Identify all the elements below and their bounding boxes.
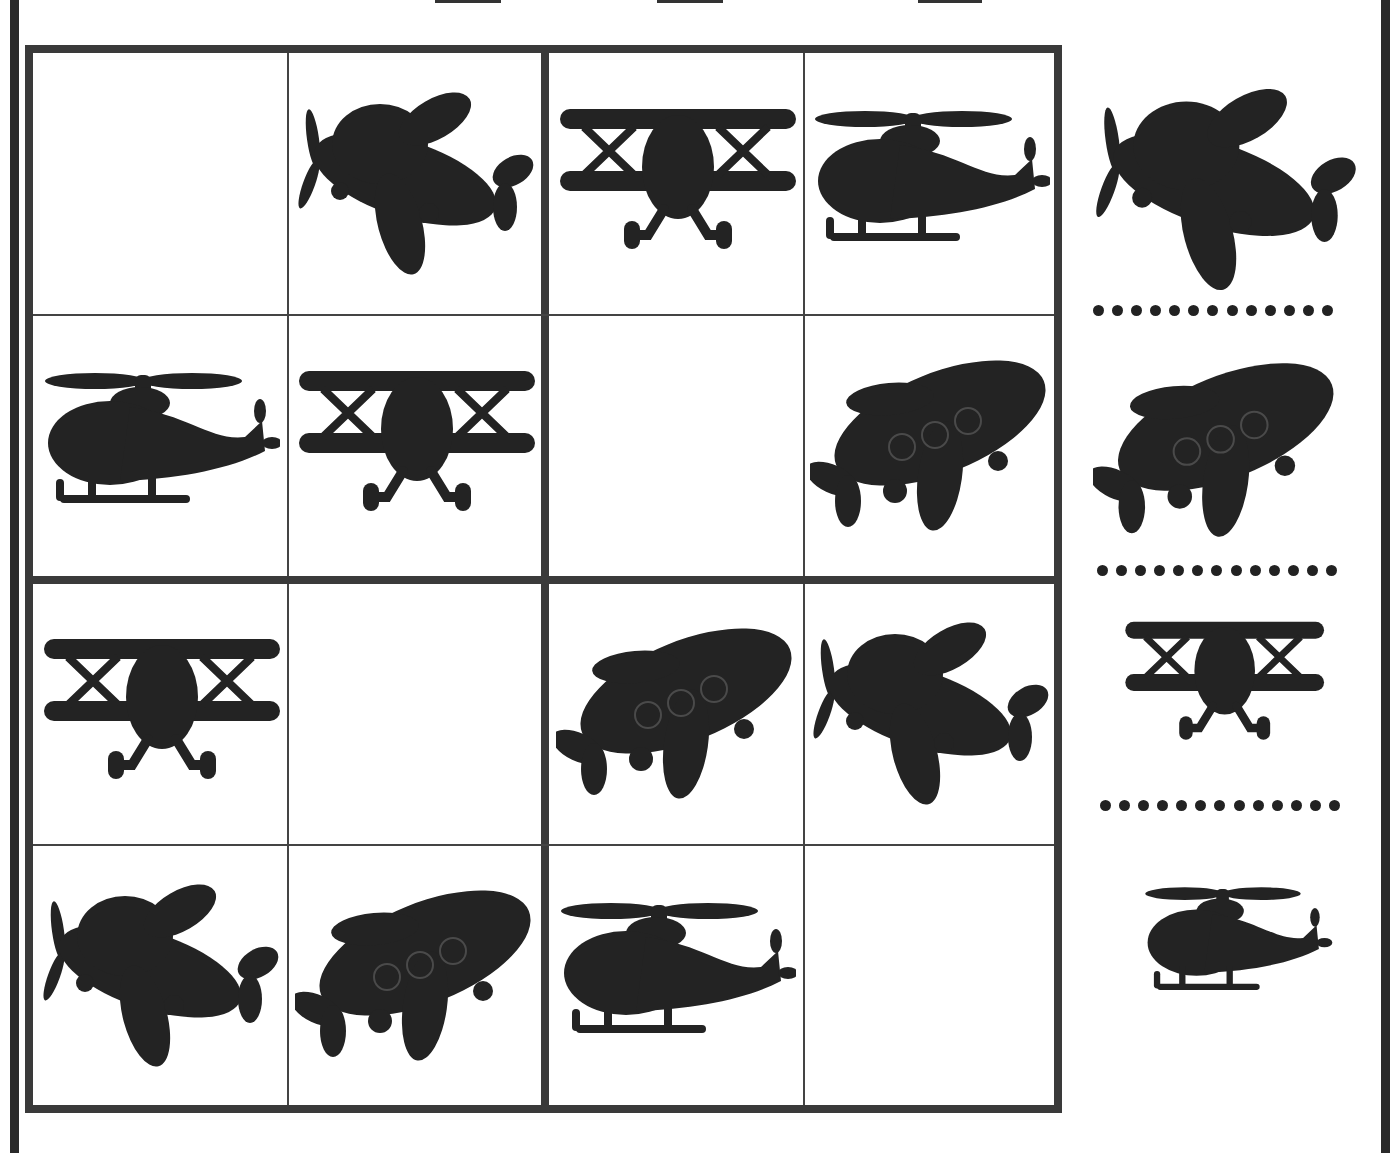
biplane-icon: [295, 351, 535, 541]
biplane-icon: [556, 89, 796, 279]
dotted-answer-line: [1100, 800, 1340, 812]
grid-cell[interactable]: [289, 316, 541, 576]
grid-cell[interactable]: [805, 316, 1054, 576]
grid-cell-empty[interactable]: [33, 53, 287, 314]
top-cutoff-mark: [435, 0, 501, 3]
grid-cell-empty[interactable]: [549, 316, 803, 576]
grid-box-divider: [33, 576, 1054, 584]
grid-cell[interactable]: [549, 53, 803, 314]
helicopter-icon: [556, 881, 796, 1071]
grid-cell[interactable]: [549, 584, 803, 844]
grid-cell[interactable]: [33, 316, 287, 576]
key-jet-plane[interactable]: [1090, 350, 1340, 550]
jet-plane-icon: [1093, 353, 1338, 548]
propeller-plane-icon: [295, 89, 535, 279]
grid-cell[interactable]: [33, 584, 287, 844]
dotted-answer-line: [1097, 565, 1337, 577]
grid-cell[interactable]: [289, 846, 541, 1105]
top-cutoff-mark: [657, 0, 723, 3]
key-biplane[interactable]: [1088, 605, 1358, 765]
grid-cell-empty[interactable]: [289, 584, 541, 844]
jet-plane-icon: [810, 351, 1050, 541]
propeller-plane-icon: [40, 881, 280, 1071]
helicopter-icon: [1100, 870, 1372, 1020]
propeller-plane-icon: [1090, 85, 1360, 295]
dotted-answer-line: [1093, 305, 1333, 317]
biplane-icon: [40, 619, 280, 809]
key-helicopter[interactable]: [1100, 870, 1372, 1020]
helicopter-icon: [40, 351, 280, 541]
propeller-plane-icon: [810, 619, 1050, 809]
grid-cell-empty[interactable]: [805, 846, 1054, 1105]
grid-cell[interactable]: [33, 846, 287, 1105]
biplane-icon: [1089, 605, 1357, 765]
page-border-right: [1381, 0, 1390, 1153]
grid-cell[interactable]: [289, 53, 541, 314]
jet-plane-icon: [295, 881, 535, 1071]
helicopter-icon: [810, 89, 1050, 279]
top-cutoff-mark: [918, 0, 982, 3]
key-propeller-plane[interactable]: [1090, 85, 1360, 295]
page-border-left: [10, 0, 19, 1153]
grid-cell[interactable]: [805, 53, 1054, 314]
jet-plane-icon: [556, 619, 796, 809]
grid-cell[interactable]: [805, 584, 1054, 844]
grid-cell[interactable]: [549, 846, 803, 1105]
